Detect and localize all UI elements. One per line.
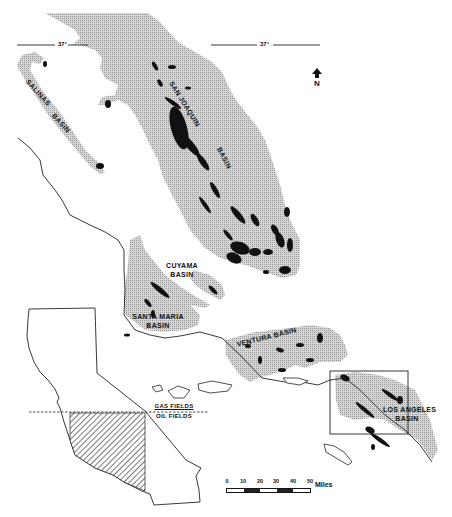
scale-tick-40: 40	[290, 478, 296, 484]
scale-tick-10: 10	[240, 478, 246, 484]
scale-tick-30: 30	[273, 478, 279, 484]
latitude-label-left: 37°	[58, 41, 67, 47]
salinas-basin-area	[17, 52, 105, 174]
san-joaquin-basin-area	[45, 13, 300, 278]
gas-fields-label: GAS FIELDS	[150, 403, 198, 409]
label-cuyama: CUYAMA	[165, 262, 199, 269]
label-santa-maria: SANTA MARIA	[128, 313, 188, 320]
channel-islands	[152, 378, 352, 465]
scale-unit: Miles	[315, 481, 333, 488]
oil-fields-label: OIL FIELDS	[150, 413, 198, 419]
north-arrow-stem	[315, 74, 319, 78]
north-label: N	[309, 79, 325, 88]
scale-tick-50: 50	[307, 478, 313, 484]
label-santa-maria-basin: BASIN	[128, 322, 188, 329]
label-cuyama-basin: BASIN	[165, 271, 199, 278]
scale-bar: 0 10 20 30 40 50 Miles	[226, 478, 356, 498]
oil-fields-hatched-region	[70, 413, 145, 491]
label-los-angeles: LOS ANGELES	[383, 406, 431, 413]
label-los-angeles-basin: BASIN	[383, 415, 431, 422]
scale-bar-graphic	[226, 488, 311, 493]
latitude-label-right: 37°	[260, 41, 269, 47]
basin-map	[0, 0, 452, 517]
scale-tick-0: 0	[225, 478, 228, 484]
north-arrow: N	[309, 68, 325, 88]
scale-tick-20: 20	[257, 478, 263, 484]
